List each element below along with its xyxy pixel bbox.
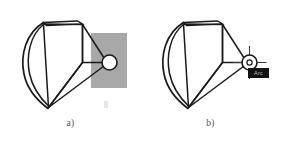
panel-a-caption: a) xyxy=(0,118,141,128)
hub-circle[interactable] xyxy=(102,55,117,70)
panel-a-drawing xyxy=(0,0,141,151)
figure-panel-a[interactable]: a) xyxy=(0,0,141,151)
lower-diagonal-edge xyxy=(189,65,247,108)
upper-diagonal-edge xyxy=(223,25,247,62)
snap-tooltip: Arc xyxy=(248,68,269,78)
side-quad-face xyxy=(44,24,83,108)
scan-artifact xyxy=(104,101,108,108)
figure-sheet: a) xyxy=(0,0,281,151)
side-quad-face xyxy=(184,24,223,108)
panel-b-caption: b) xyxy=(140,118,281,128)
